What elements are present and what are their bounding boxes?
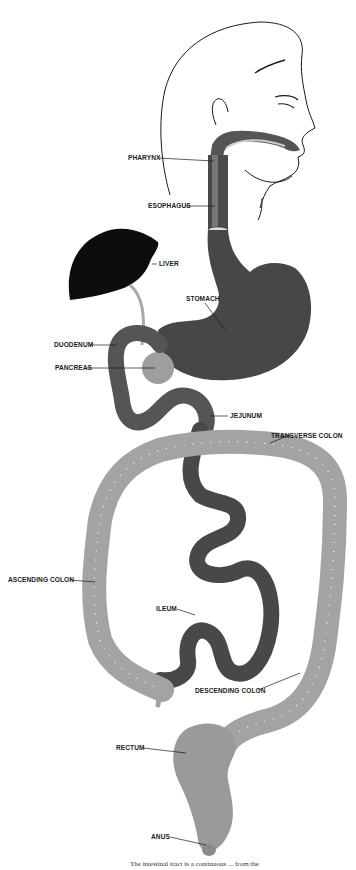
colon-shape xyxy=(94,442,335,745)
esophagus-shape xyxy=(208,155,228,233)
label-stomach: STOMACH xyxy=(186,294,220,304)
ileum-shape xyxy=(160,430,271,680)
label-esophagus: ESOPHAGUS xyxy=(148,201,191,211)
anus-shape xyxy=(202,844,216,856)
figure-caption: The intestinal tract is a continuous ...… xyxy=(130,860,259,868)
label-liver: LIVER xyxy=(159,259,179,269)
head-outline xyxy=(161,22,315,220)
label-pharynx: PHARYNX xyxy=(128,153,160,163)
stomach-shape xyxy=(158,230,311,380)
rectum-shape xyxy=(173,723,236,851)
label-descending-colon: DESCENDING COLON xyxy=(195,686,266,696)
label-pancreas: PANCREAS xyxy=(55,363,92,373)
label-ascending-colon: ASCENDING COLON xyxy=(8,575,74,585)
label-anus: ANUS xyxy=(151,832,170,842)
label-transverse-colon: TRANSVERSE COLON xyxy=(271,431,343,441)
label-jejunum: JEJUNUM xyxy=(230,411,262,421)
label-duodenum: DUODENUM xyxy=(54,340,93,350)
label-ileum: ILEUM xyxy=(156,604,177,614)
digestive-system-diagram: PHARYNX ESOPHAGUS LIVER STOMACH DUODENUM… xyxy=(0,0,356,870)
liver-shape xyxy=(69,229,159,300)
label-rectum: RECTUM xyxy=(116,743,145,753)
